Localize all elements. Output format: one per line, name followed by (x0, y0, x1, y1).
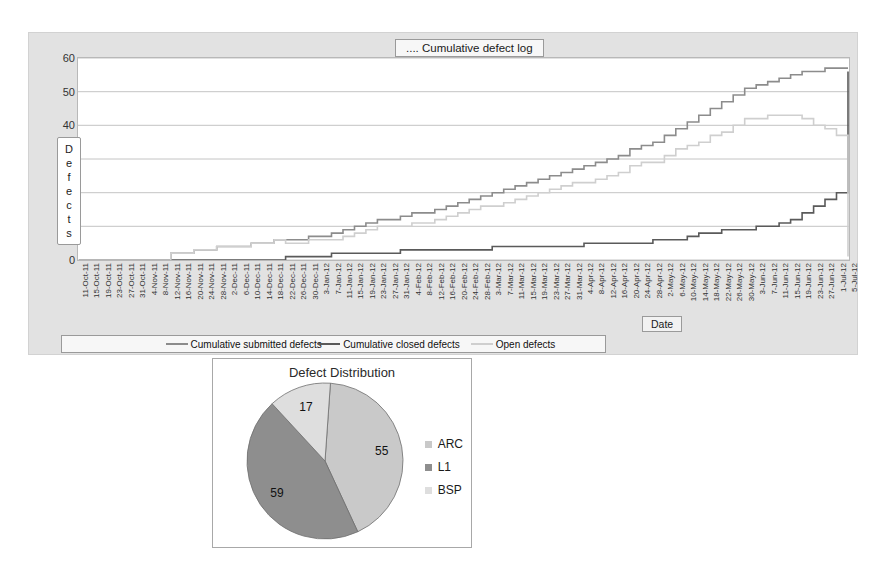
x-axis-tick: 28-Apr-12 (656, 263, 664, 299)
pie-legend-color-swatch (425, 441, 432, 448)
pie-value-label: 59 (270, 486, 284, 500)
x-axis-tick: 4-Apr-12 (587, 263, 595, 294)
defect-distribution-chart: Defect Distribution 555917 ARCL1BSP (212, 358, 472, 548)
x-axis-tick: 20-Nov-11 (197, 263, 205, 300)
x-axis-title: Date (642, 316, 682, 332)
x-axis-tick: 23-Jan-12 (380, 263, 388, 299)
line-chart-legend: Cumulative submitted defectsCumulative c… (61, 335, 606, 353)
x-axis-tick: 19-Mar-12 (541, 263, 549, 300)
x-axis-tick: 16-Feb-12 (449, 263, 457, 300)
pie-legend-label: ARC (438, 437, 463, 451)
y-axis-tick: 0 (31, 255, 75, 266)
y-axis-title-letter: c (58, 198, 80, 212)
x-axis-tick: 7-Jan-12 (335, 263, 343, 295)
x-axis-tick: 18-May-12 (713, 263, 721, 301)
x-axis-tick: 20-Feb-12 (461, 263, 469, 300)
cumulative-defect-log-chart: .... Cumulative defect log 0102030405060… (28, 32, 858, 355)
legend-entry[interactable]: Cumulative submitted defects (166, 339, 322, 350)
x-axis-tick: 23-Jun-12 (817, 263, 825, 299)
x-axis-tick: 19-Jun-12 (805, 263, 813, 299)
x-axis-tick: 15-Oct-11 (93, 263, 101, 298)
x-axis-tick: 31-Mar-12 (576, 263, 584, 300)
x-axis-tick: 22-Dec-11 (289, 263, 297, 300)
x-axis-tick: 31-Jan-12 (403, 263, 411, 299)
x-axis-tick: 30-Dec-11 (312, 263, 320, 300)
x-axis-tick: 14-May-12 (702, 263, 710, 301)
pie-legend-entry[interactable]: BSP (425, 483, 463, 497)
x-axis-tick: 12-Apr-12 (610, 263, 618, 299)
x-axis-tick: 14-Dec-11 (266, 263, 274, 300)
x-axis-tick: 5-Jul-12 (851, 263, 859, 292)
y-axis-tick: 50 (31, 86, 75, 97)
series-paths (79, 68, 848, 260)
y-axis-title-letter: f (58, 170, 80, 184)
x-axis-tick: 4-Nov-11 (151, 263, 159, 295)
x-axis-tick: 11-Jun-12 (782, 263, 790, 298)
pie-legend-entry[interactable]: ARC (425, 437, 463, 451)
x-axis-tick: 15-Jan-12 (357, 263, 365, 299)
y-axis-title: Defects (57, 137, 81, 245)
y-axis-title-letter: e (58, 156, 80, 170)
x-axis-tick: 3-Jan-12 (323, 263, 331, 295)
y-axis-tick: 40 (31, 120, 75, 131)
pie-legend-entry[interactable]: L1 (425, 460, 463, 474)
pie-value-label: 55 (375, 444, 389, 458)
line-series (79, 68, 848, 260)
x-axis-tick: 8-Apr-12 (598, 263, 606, 294)
legend-color-swatch (166, 343, 188, 345)
legend-entry[interactable]: Open defects (471, 339, 555, 350)
x-axis-tick: 30-May-12 (748, 263, 756, 301)
x-axis-tick: 27-Jun-12 (828, 263, 836, 299)
legend-entry[interactable]: Cumulative closed defects (318, 339, 460, 350)
x-axis-tick: 3-Jun-12 (759, 263, 767, 295)
x-axis-tick: 20-Apr-12 (633, 263, 641, 299)
x-axis-tick: 6-Dec-11 (243, 263, 251, 295)
line-plot-area (77, 57, 850, 261)
y-axis-title-letter: D (58, 142, 80, 156)
x-axis-tick: 31-Oct-11 (139, 263, 147, 298)
x-axis-tick: 27-Oct-11 (128, 263, 136, 298)
x-axis-tick: 12-Feb-12 (438, 263, 446, 300)
x-axis-tick: 23-Oct-11 (116, 263, 124, 298)
legend-label: Open defects (496, 339, 555, 350)
line-series-svg (78, 58, 849, 260)
x-axis-tick: 24-Feb-12 (472, 263, 480, 300)
y-axis-tick: 60 (31, 53, 75, 64)
x-axis-tick: 15-Jun-12 (794, 263, 802, 299)
x-axis-tick: 3-Mar-12 (495, 263, 503, 295)
legend-color-swatch (318, 343, 340, 345)
x-axis-tick: 24-Nov-11 (208, 263, 216, 300)
x-axis-tick: 16-Apr-12 (621, 263, 629, 299)
pie-slice-group (247, 383, 403, 539)
x-axis-tick: 11-Mar-12 (518, 263, 526, 299)
x-axis-tick: 22-May-12 (725, 263, 733, 301)
x-axis-tick: 12-Nov-11 (174, 263, 182, 300)
pie-legend-color-swatch (425, 487, 432, 494)
pie-legend-color-swatch (425, 464, 432, 471)
x-axis-tick: 2-Dec-11 (231, 263, 239, 295)
x-axis-tick: 10-Dec-11 (254, 263, 262, 300)
x-axis-tick: 27-Mar-12 (564, 263, 572, 300)
y-axis-title-letter: t (58, 212, 80, 226)
x-axis-tick: 2-May-12 (667, 263, 675, 297)
x-axis-tick: 19-Jan-12 (369, 263, 377, 299)
x-axis-tick: 7-Mar-12 (507, 263, 515, 295)
pie-legend-label: BSP (438, 483, 462, 497)
x-axis-tick: 26-May-12 (736, 263, 744, 301)
line-series (79, 115, 848, 260)
x-axis-tick: 15-Mar-12 (530, 263, 538, 300)
x-axis-tick: 28-Feb-12 (484, 263, 492, 300)
pie-legend-label: L1 (438, 460, 451, 474)
x-axis-tick: 18-Dec-11 (277, 263, 285, 300)
x-axis-tick: 8-Feb-12 (426, 263, 434, 295)
pie-chart-title: Defect Distribution (213, 365, 471, 380)
x-axis-tick: 7-Jun-12 (771, 263, 779, 295)
x-axis-tick: 10-May-12 (690, 263, 698, 301)
line-chart-title: .... Cumulative defect log (395, 39, 544, 57)
x-axis-tick: 11-Jan-12 (346, 263, 354, 298)
x-axis-tick: 26-Dec-11 (300, 263, 308, 300)
pie-value-label: 17 (299, 400, 313, 414)
x-axis-tick: 8-Nov-11 (162, 263, 170, 295)
x-axis-tick: 16-Nov-11 (185, 263, 193, 300)
x-axis-tick: 27-Jan-12 (392, 263, 400, 299)
